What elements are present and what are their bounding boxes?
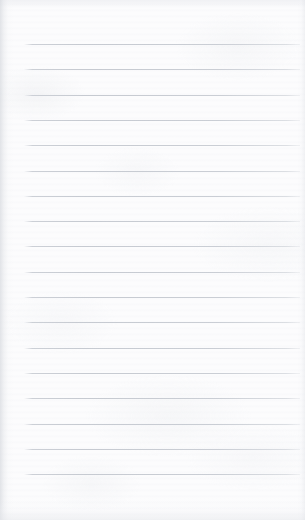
ruled-line bbox=[24, 272, 300, 273]
ruled-line-slot[interactable] bbox=[24, 300, 300, 324]
ruled-line-slot[interactable] bbox=[24, 22, 300, 46]
ruled-line bbox=[24, 449, 300, 450]
ruled-line-slot[interactable] bbox=[24, 123, 300, 147]
ruled-line bbox=[24, 424, 300, 425]
ruled-line-slot[interactable] bbox=[24, 174, 300, 198]
ruled-line bbox=[24, 221, 300, 222]
ruled-line bbox=[24, 196, 300, 197]
ruled-line-slot[interactable] bbox=[24, 149, 300, 173]
ruled-line-slot[interactable] bbox=[24, 224, 300, 248]
ruled-line bbox=[24, 398, 300, 399]
ruled-line bbox=[24, 171, 300, 172]
ruled-line bbox=[24, 373, 300, 374]
ruled-line-slot[interactable] bbox=[24, 326, 300, 350]
ruled-line-slot[interactable] bbox=[24, 98, 300, 122]
ruled-line bbox=[24, 297, 300, 298]
ruled-line bbox=[24, 322, 300, 323]
ruled-line bbox=[24, 246, 300, 247]
ruled-line-slot[interactable] bbox=[24, 250, 300, 274]
ruled-line-slot[interactable] bbox=[24, 376, 300, 400]
ruled-line-slot[interactable] bbox=[24, 275, 300, 299]
ruled-line-slot[interactable] bbox=[24, 402, 300, 426]
ruled-line-slot[interactable] bbox=[24, 452, 300, 476]
ruled-line bbox=[24, 120, 300, 121]
ruled-line bbox=[24, 95, 300, 96]
ruled-line bbox=[24, 474, 300, 475]
ruled-line-slot[interactable] bbox=[24, 427, 300, 451]
ruled-line bbox=[24, 348, 300, 349]
ruled-line bbox=[24, 145, 300, 146]
ruled-line-slot[interactable] bbox=[24, 47, 300, 71]
ruling-layer bbox=[0, 0, 305, 520]
ruled-line-slot[interactable] bbox=[24, 351, 300, 375]
ruled-paper-page bbox=[0, 0, 305, 520]
ruled-line-slot[interactable] bbox=[24, 73, 300, 97]
ruled-line bbox=[24, 69, 300, 70]
ruled-line-slot[interactable] bbox=[24, 199, 300, 223]
ruled-line bbox=[24, 44, 300, 45]
